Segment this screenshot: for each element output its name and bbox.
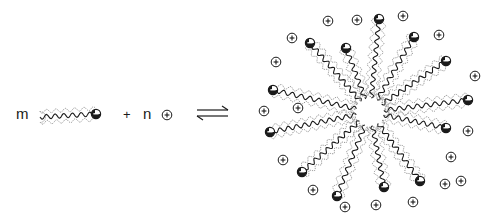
free-counterion	[162, 110, 172, 120]
hydrocarbon-tail	[378, 123, 419, 177]
anionic-head-icon	[463, 95, 472, 104]
anionic-head-icon	[265, 127, 274, 136]
counterion-icon	[408, 197, 418, 207]
tail-halo-edge	[382, 40, 419, 103]
counterion-icon	[162, 110, 172, 120]
tail-halo-edge	[385, 65, 449, 109]
counterion-icon	[308, 185, 318, 195]
tail-halo-edge	[385, 104, 469, 117]
counterion-coefficient: n	[143, 105, 151, 122]
anionic-head-icon	[297, 167, 306, 176]
counterion-cloud	[259, 11, 480, 212]
equilibrium-arrow	[197, 106, 228, 120]
tail-halo-edge	[40, 118, 96, 124]
anionic-head-icon	[409, 32, 418, 41]
tail-halo-edge	[342, 127, 370, 198]
counterion-icon	[463, 126, 473, 136]
anionic-head-icon	[379, 182, 388, 191]
anionic-head-icon	[374, 14, 383, 23]
counterion-icon	[371, 200, 381, 210]
counterion-icon	[440, 179, 450, 189]
hydrocarbon-tail	[305, 121, 360, 170]
anionic-head-icon	[305, 38, 314, 47]
micelle-surfactant-9	[366, 125, 391, 192]
tail-halo-cap	[367, 125, 378, 132]
tail-halo-edge	[372, 34, 409, 97]
hydrocarbon-tail	[384, 114, 442, 128]
counterion-icon	[259, 106, 269, 116]
anionic-head-icon	[268, 85, 277, 94]
counterion-icon	[434, 30, 444, 40]
tail-halo-edge	[272, 95, 355, 114]
counterion-icon	[398, 11, 408, 21]
micelle-surfactant-7	[383, 109, 451, 134]
free-surfactant-molecule	[40, 107, 101, 124]
tail-halo-cap	[351, 109, 358, 120]
counterion-icon	[287, 33, 297, 43]
tail-halo-edge	[40, 107, 96, 113]
plus-sign: +	[123, 107, 131, 122]
anionic-head-icon	[415, 176, 424, 185]
tail-halo-edge	[383, 120, 445, 134]
surfactant-molecule	[40, 107, 101, 124]
micelle-surfactant-5	[379, 56, 451, 109]
hydrocarbon-tail	[338, 125, 364, 192]
anionic-head-icon	[91, 109, 100, 118]
anionic-head-icon	[341, 43, 350, 52]
counterion-icon	[456, 176, 466, 186]
hydrocarbon-tail	[382, 62, 443, 105]
tail-halo-cap	[374, 120, 384, 129]
anionic-head-icon	[441, 56, 450, 65]
counterion-icon	[323, 16, 333, 26]
counterion-icon	[271, 57, 281, 67]
counterion-icon	[278, 155, 288, 165]
micelle-surfactant-4	[372, 32, 418, 102]
micelle-surfactant-11	[297, 117, 363, 177]
surfactant-coefficient: m	[16, 105, 29, 122]
counterion-icon	[352, 15, 362, 25]
counterion-icon	[446, 152, 456, 162]
micelle-equilibrium-diagram	[0, 0, 493, 219]
counterion-icon	[470, 71, 480, 81]
counterion-icon	[293, 103, 303, 113]
tail-halo-edge	[314, 39, 365, 97]
anionic-head-icon	[332, 191, 341, 200]
anionic-head-icon	[441, 123, 450, 132]
hydrocarbon-tail	[377, 40, 412, 99]
counterion-icon	[340, 202, 350, 212]
tail-halo-edge	[332, 123, 360, 194]
micelle-surfactant-12	[265, 108, 357, 139]
